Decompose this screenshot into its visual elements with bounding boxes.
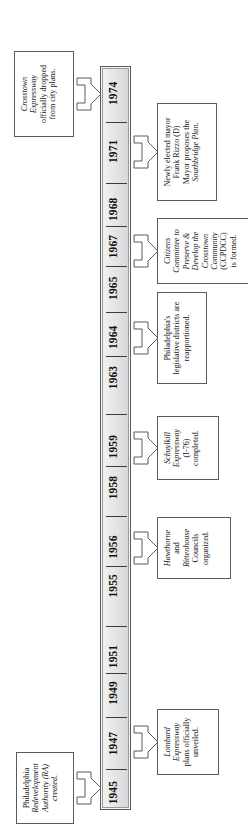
- event-text-line: Crosstown: [201, 224, 210, 278]
- event-text-line: (CCPDCC): [219, 224, 228, 278]
- timeline-tick: [106, 356, 127, 357]
- event-text-line: Lombard: [163, 715, 172, 769]
- event-text-line: Redevelopment: [31, 758, 40, 818]
- timeline-tick: [106, 769, 127, 770]
- timeline-year-1959: 1959: [107, 435, 119, 458]
- event-box-schuylkill-expressway: SchuylkillExpressway(I-76)completed.: [157, 416, 219, 480]
- event-text-line: Frank Rizzo (D): [172, 109, 181, 195]
- event-text-line: Philadelphia: [22, 758, 31, 818]
- timeline-tick: [106, 414, 127, 415]
- event-text-line: Schuylkill: [163, 422, 172, 474]
- event-box-rizzo-southbridge: Newly elected mayorFrank Rizzo (D)Mayor …: [157, 103, 217, 201]
- event-text-line: Authority (RA) created.: [41, 758, 60, 818]
- event-box-ra-created: PhiladelphiaRedevelopmentAuthority (RA) …: [16, 752, 74, 824]
- event-box-lombard-expressway: LombardExpresswayplans officiallyunveile…: [157, 709, 219, 775]
- event-text-line: completed.: [191, 422, 200, 474]
- event-text-line: Preserve &: [182, 224, 191, 278]
- event-text-line: plans officially: [182, 715, 191, 769]
- timeline-tick: [106, 566, 127, 567]
- timeline-year-1964: 1964: [107, 326, 119, 349]
- event-text-line: officially dropped: [39, 57, 48, 131]
- event-text-line: Rittenhouse: [182, 523, 191, 573]
- event-box-districts-reapportioned: Philadelphia'slegislative districts arer…: [157, 292, 207, 384]
- timeline-tick: [106, 122, 127, 123]
- event-text-line: organized.: [201, 523, 210, 573]
- event-text-line: Mayor proposes the: [182, 109, 191, 195]
- event-text-line: Committee to: [172, 224, 181, 278]
- timeline-tick: [106, 266, 127, 267]
- event-text-line: Philadelphia's: [163, 298, 172, 378]
- event-text-line: Expressway: [172, 422, 181, 474]
- event-text-line: (I-76): [182, 422, 191, 474]
- event-text-line: unveiled.: [191, 715, 200, 769]
- timeline-tick: [106, 516, 127, 517]
- event-box-hawthorne-rittenhouse-councils: HawthorneandRittenhouseCouncilsorganized…: [157, 517, 231, 579]
- timeline-year-1967: 1967: [107, 235, 119, 258]
- event-box-crosstown-dropped: CrosstownExpresswayofficially droppedfro…: [14, 51, 74, 137]
- event-text-line: is formed.: [229, 224, 238, 278]
- event-text-line: Crosstown: [20, 57, 29, 131]
- timeline-year-1951: 1951: [107, 645, 119, 668]
- event-text-line: Citizens: [163, 224, 172, 278]
- timeline-year-1955: 1955: [107, 574, 119, 597]
- event-text-line: Community: [210, 224, 219, 278]
- event-text-line: Develop the: [191, 224, 200, 278]
- timeline-year-1947: 1947: [107, 732, 119, 755]
- timeline-year-1958: 1958: [107, 476, 119, 499]
- timeline-tick: [106, 717, 127, 718]
- event-text-line: Newly elected mayor: [163, 109, 172, 195]
- timeline-tick: [106, 673, 127, 674]
- event-text-line: reapportioned.: [182, 298, 191, 378]
- timeline-year-1963: 1963: [107, 366, 119, 389]
- timeline-year-1971: 1971: [107, 140, 119, 163]
- timeline-year-1965: 1965: [107, 277, 119, 300]
- event-text-line: legislative districts are: [172, 298, 181, 378]
- timeline-tick: [106, 626, 127, 627]
- timeline-year-1974: 1974: [107, 82, 119, 105]
- event-text-line: Expressway: [29, 57, 38, 131]
- timeline-year-1949: 1949: [107, 681, 119, 704]
- timeline-figure: 1945194719491951195519561958195919631964…: [0, 0, 248, 826]
- timeline-tick: [106, 183, 127, 184]
- timeline-axis-bar: 1945194719491951195519561958195919631964…: [100, 66, 131, 810]
- timeline-year-1968: 1968: [107, 198, 119, 221]
- timeline-year-1945: 1945: [107, 781, 119, 804]
- timeline-tick: [106, 313, 127, 314]
- event-text-line: Expressway: [172, 715, 181, 769]
- event-text-line: Southbridge Plan.: [191, 109, 200, 195]
- event-text-line: Councils: [191, 523, 200, 573]
- event-text-line: and: [172, 523, 181, 573]
- timeline-tick: [106, 466, 127, 467]
- event-text-line: Hawthorne: [163, 523, 172, 573]
- timeline-tick: [106, 226, 127, 227]
- event-text-line: from city plans.: [48, 57, 57, 131]
- event-box-ccpdcc-formed: CitizensCommittee toPreserve &Develop th…: [157, 218, 248, 284]
- timeline-year-1956: 1956: [107, 535, 119, 558]
